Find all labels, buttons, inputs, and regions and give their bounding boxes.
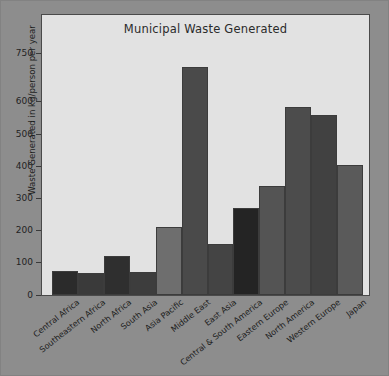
- plot-area: [42, 45, 369, 295]
- x-axis-tick-labels: Central AfricaSoutheastern AfricaNorth A…: [51, 297, 364, 375]
- y-axis-title: Waste Generated in kg/person per year: [27, 15, 37, 205]
- x-axis-tick-label-text: Japan: [344, 297, 368, 319]
- bar: [78, 273, 104, 295]
- bar: [130, 272, 156, 295]
- y-axis-tick-label: 200: [16, 226, 36, 235]
- bar: [259, 186, 285, 295]
- y-axis-tick-mark: [36, 295, 41, 296]
- figure-frame: Municipal Waste Generated 01002003004005…: [0, 0, 389, 376]
- bar: [182, 67, 208, 295]
- chart-title: Municipal Waste Generated: [42, 22, 369, 36]
- y-axis-tick-label: 0: [27, 290, 36, 299]
- bar: [156, 227, 182, 295]
- bar: [233, 208, 259, 295]
- bar: [52, 271, 78, 295]
- bar: [311, 115, 337, 295]
- bar: [104, 256, 130, 295]
- bar: [285, 107, 311, 295]
- bar: [337, 165, 363, 295]
- y-axis-tick-label: 100: [16, 258, 36, 267]
- y-axis-tick-mark: [36, 230, 41, 231]
- bar-series: [52, 45, 363, 295]
- bar: [208, 244, 234, 295]
- y-axis-tick-mark: [36, 262, 41, 263]
- chart-plot-card: Municipal Waste Generated: [41, 14, 370, 296]
